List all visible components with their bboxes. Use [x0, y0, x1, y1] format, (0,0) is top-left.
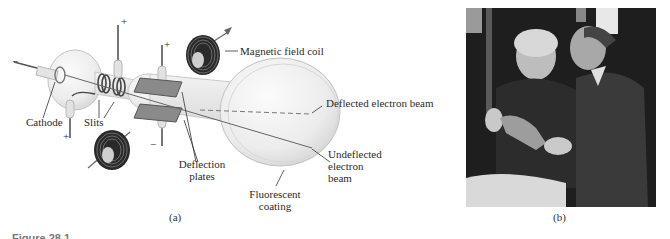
crt-tube-illustration: [0, 0, 460, 225]
magnetic-coil-bottom: [88, 130, 130, 170]
undeflected-line2: electron: [328, 160, 382, 172]
sublabel-a: (a): [169, 211, 181, 223]
label-undeflected-electron-beam: Undeflected electron beam: [328, 148, 382, 184]
plate-polarity-minus: −: [150, 138, 156, 150]
label-cathode: Cathode: [26, 116, 63, 128]
undeflected-line3: beam: [328, 172, 382, 184]
label-magnetic-field-coil: Magnetic field coil: [240, 45, 324, 57]
cathode-polarity-minus: −: [12, 55, 18, 67]
photo-panel-b: [466, 8, 656, 207]
label-fluorescent-coating: Fluorescent coating: [240, 188, 310, 212]
deflection-line1: Deflection: [172, 158, 232, 170]
anode-polarity-plus-bottom: +: [63, 130, 69, 142]
label-deflection-plates: Deflection plates: [172, 158, 232, 182]
sublabel-b: (b): [553, 211, 566, 223]
anode-polarity-plus-top: +: [121, 15, 127, 27]
label-slits: Slits: [84, 116, 104, 128]
plate-polarity-plus: +: [164, 38, 170, 50]
figure-caption-cutoff: Figure 28.1: [12, 232, 70, 239]
deflection-line2: plates: [172, 170, 232, 182]
fluorescent-line2: coating: [240, 200, 310, 212]
panel-a-crt-diagram: − + + + − Magnetic field coil Deflected …: [0, 0, 460, 225]
photo-two-scientists: [466, 8, 656, 207]
label-deflected-electron-beam: Deflected electron beam: [326, 97, 434, 109]
fluorescent-line1: Fluorescent: [240, 188, 310, 200]
undeflected-line1: Undeflected: [328, 148, 382, 160]
